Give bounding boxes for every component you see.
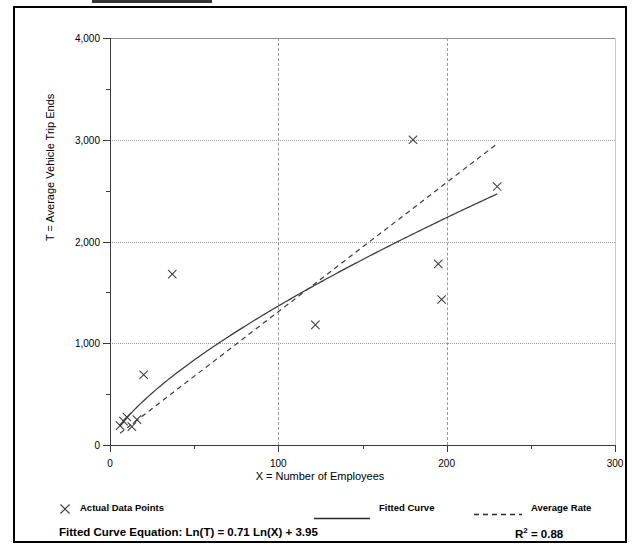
scan-artifact (92, 0, 212, 3)
data-point-marker (409, 136, 417, 144)
y-tick-label: 3,000 (75, 134, 100, 145)
data-point-marker (139, 371, 147, 379)
y-tick-label: 4,000 (75, 33, 100, 44)
dashed-line-icon (474, 502, 522, 513)
x-tick-minor (194, 445, 195, 449)
solid-line-icon (314, 506, 370, 508)
x-tick-minor (363, 445, 364, 449)
data-point-marker (434, 260, 442, 268)
y-tick-major (103, 445, 110, 446)
data-point-marker (116, 421, 124, 429)
data-point-marker (133, 415, 141, 423)
legend-item-average-rate: Average Rate (474, 496, 591, 518)
data-point-marker (437, 295, 445, 303)
x-tick-major (447, 445, 448, 452)
fitted-curve-equation: Fitted Curve Equation: Ln(T) = 0.71 Ln(X… (59, 526, 318, 538)
data-point-marker (493, 182, 501, 190)
legend-label-actual-data-points: Actual Data Points (80, 502, 164, 513)
x-tick-label: 100 (270, 458, 287, 469)
legend-label-fitted-curve: Fitted Curve (379, 502, 434, 513)
y-tick-label: 2,000 (75, 236, 100, 247)
x-tick-major (110, 445, 111, 452)
legend-label-average-rate: Average Rate (531, 502, 591, 513)
legend-item-fitted-curve: Fitted Curve (314, 496, 434, 518)
chart-figure: 01,0002,0003,0004,000 0100200300 T = Ave… (0, 0, 639, 550)
x-axis-title: X = Number of Employees (15, 470, 625, 482)
x-tick-major (615, 445, 616, 452)
y-tick-major (103, 242, 110, 243)
plot-area: 01,0002,0003,0004,000 0100200300 (110, 38, 615, 445)
actual-data-points (116, 136, 501, 431)
fitted-curve-path (120, 194, 497, 426)
y-axis-title: T = Average Vehicle Trip Ends (44, 94, 56, 241)
x-tick-label: 200 (438, 458, 455, 469)
x-tick-major (278, 445, 279, 452)
data-point-marker (168, 270, 176, 278)
r-squared-number: = 0.88 (528, 528, 564, 540)
x-cross-marker-icon (59, 501, 71, 513)
data-point-marker (123, 413, 131, 421)
x-tick-minor (531, 445, 532, 449)
y-tick-major (103, 343, 110, 344)
legend-item-actual-data-points: Actual Data Points (59, 496, 164, 518)
plot-right-rule (615, 38, 616, 445)
figure-frame-border: 01,0002,0003,0004,000 0100200300 T = Ave… (13, 6, 627, 543)
r-squared-value: R2 = 0.88 (515, 526, 563, 540)
y-tick-major (103, 38, 110, 39)
x-tick-label: 0 (107, 458, 113, 469)
y-tick-label: 0 (94, 440, 100, 451)
equation-row: Fitted Curve Equation: Ln(T) = 0.71 Ln(X… (45, 524, 625, 548)
fitted-curve-line (120, 194, 497, 426)
y-tick-major (103, 140, 110, 141)
y-tick-label: 1,000 (75, 338, 100, 349)
x-tick-label: 300 (607, 458, 624, 469)
data-point-marker (311, 321, 319, 329)
chart-legend: Actual Data Points Fitted Curve Average … (45, 496, 625, 518)
series-plot-svg (110, 38, 615, 445)
